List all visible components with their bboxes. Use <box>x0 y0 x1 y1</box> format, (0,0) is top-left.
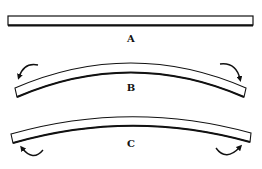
label-b: B <box>127 82 135 93</box>
moment-arrow-icon <box>220 64 240 79</box>
label-c: C <box>127 138 135 149</box>
label-a: A <box>126 33 135 44</box>
moment-arrow-icon <box>19 65 38 78</box>
moment-arrow-icon <box>22 148 43 156</box>
moment-arrow-icon <box>216 147 240 155</box>
beam-a <box>8 16 253 26</box>
beam-bending-diagram: A B C <box>0 0 262 169</box>
